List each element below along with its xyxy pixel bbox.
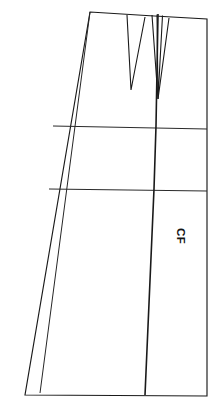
hip-guide-line-upper — [53, 126, 207, 129]
pattern-drawing — [0, 0, 220, 413]
hip-guide-line-lower — [49, 189, 207, 191]
center-front-label: CF — [175, 228, 186, 244]
skirt-front-outline — [25, 12, 207, 396]
inner-side-seam-line — [40, 12, 90, 393]
dart-left — [127, 15, 145, 90]
pattern-diagram-canvas: CF — [0, 0, 220, 413]
